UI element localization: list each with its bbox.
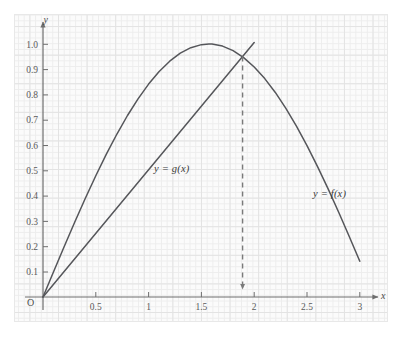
curve-f-plot [43,44,360,297]
x-tick-label-1: 1 [136,302,162,312]
x-tick-label-2.5: 2.5 [294,302,320,312]
x-axis-ticks [96,292,360,297]
y-tick-label-0.2: 0.2 [14,242,38,252]
y-tick-label-0.8: 0.8 [14,90,38,100]
axis-lines [25,22,378,310]
x-tick-label-2: 2 [241,302,267,312]
y-axis-label: y [44,14,48,25]
x-axis-label: x [381,290,385,301]
y-tick-label-0.7: 0.7 [14,115,38,125]
curve-g-label: y = g(x) [154,163,190,174]
curve-g-plot [43,42,254,297]
x-tick-label-0.5: 0.5 [83,302,109,312]
curve-f-label: y = f(x) [313,188,346,199]
plot-canvas [0,0,401,339]
origin-label: O [27,297,34,308]
y-axis-ticks [43,44,48,272]
y-tick-label-0.1: 0.1 [14,267,38,277]
y-tick-label-0.5: 0.5 [14,166,38,176]
y-tick-label-0.4: 0.4 [14,191,38,201]
y-tick-label-0.9: 0.9 [14,65,38,75]
y-tick-label-0.3: 0.3 [14,217,38,227]
x-tick-label-3: 3 [347,302,373,312]
y-tick-label-1.0: 1.0 [14,40,38,50]
x-tick-label-1.5: 1.5 [188,302,214,312]
chart-screenshot: 1.0 0.9 0.8 0.7 0.6 0.5 0.4 0.3 0.2 0.1 … [0,0,401,339]
y-tick-label-0.6: 0.6 [14,141,38,151]
